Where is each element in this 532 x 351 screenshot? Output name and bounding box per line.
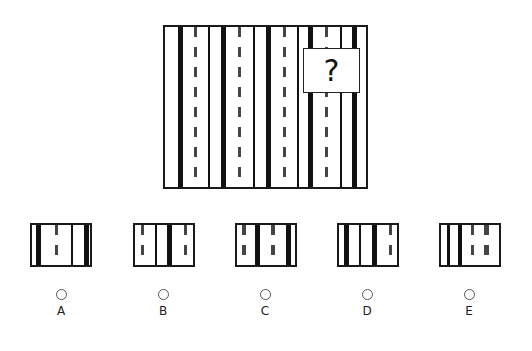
radio-e[interactable] — [464, 289, 475, 300]
thick-stripe — [221, 27, 226, 187]
dashed-stripe — [141, 225, 144, 265]
dashed-stripe — [184, 225, 187, 265]
thin-stripe — [297, 27, 299, 187]
dashed-stripe — [238, 27, 241, 187]
option-tile-d[interactable] — [337, 223, 399, 267]
thick-stripe — [255, 225, 260, 265]
question-mark: ? — [324, 53, 340, 88]
thick-stripe — [372, 225, 377, 265]
thin-stripe — [447, 225, 450, 265]
thick-stripe — [266, 27, 271, 187]
dashed-stripe — [242, 225, 246, 265]
radio-d[interactable] — [362, 289, 373, 300]
thick-stripe — [36, 225, 41, 265]
radio-a[interactable] — [56, 289, 67, 300]
option-d[interactable]: D — [337, 289, 397, 318]
option-b[interactable]: B — [133, 289, 193, 318]
dashed-stripe — [484, 225, 489, 265]
option-tile-c[interactable] — [235, 223, 297, 267]
dashed-stripe — [55, 225, 58, 265]
option-label-c: C — [235, 304, 295, 318]
thin-stripe — [208, 27, 210, 187]
option-label-e: E — [439, 304, 499, 318]
dashed-stripe — [271, 225, 275, 265]
thin-stripe — [71, 225, 73, 265]
option-label-a: A — [31, 304, 91, 318]
thin-stripe — [253, 27, 255, 187]
radio-c[interactable] — [260, 289, 271, 300]
option-label-d: D — [337, 304, 397, 318]
option-c[interactable]: C — [235, 289, 295, 318]
option-tile-a[interactable] — [30, 223, 92, 267]
thick-stripe — [344, 225, 349, 265]
radio-b[interactable] — [158, 289, 169, 300]
option-tile-e[interactable] — [439, 223, 501, 267]
thin-stripe — [155, 225, 157, 265]
option-e[interactable]: E — [439, 289, 499, 318]
thin-stripe — [359, 225, 361, 265]
thick-stripe — [167, 225, 172, 265]
option-label-b: B — [133, 304, 193, 318]
dashed-stripe — [471, 225, 474, 265]
dashed-stripe — [389, 225, 392, 265]
thick-stripe — [458, 225, 462, 265]
thick-stripe — [178, 27, 183, 187]
missing-piece-box: ? — [303, 48, 360, 93]
option-tile-b[interactable] — [133, 223, 195, 267]
dashed-stripe — [283, 27, 286, 187]
dashed-stripe — [194, 27, 197, 187]
option-a[interactable]: A — [31, 289, 91, 318]
thick-stripe — [286, 225, 291, 265]
thick-stripe — [84, 225, 89, 265]
